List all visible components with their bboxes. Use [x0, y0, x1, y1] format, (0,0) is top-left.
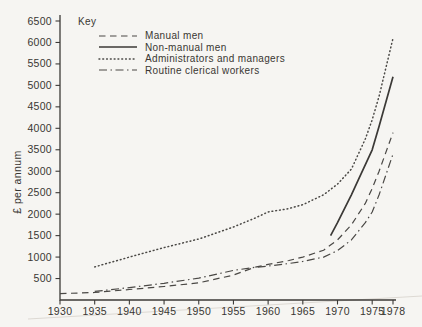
legend-swatch-dashdot [98, 67, 138, 73]
x-tick-label: 1965 [291, 305, 316, 317]
legend-item-label: Administrators and managers [145, 53, 285, 64]
x-tick-label: 1950 [186, 305, 211, 317]
scanned-book-figure: 5001000150020002500300035004000450050005… [0, 0, 422, 327]
legend-item: Manual men [98, 30, 285, 42]
legend-item: Administrators and managers [98, 53, 285, 65]
x-tick-label: 1960 [256, 305, 281, 317]
y-tick-label: 5500 [27, 57, 52, 69]
y-axis-title: £ per annum [11, 150, 23, 213]
legend-items: Manual menNon-manual menAdministrators a… [98, 30, 285, 76]
legend-item: Routine clerical workers [98, 65, 285, 77]
legend-swatch-solid [98, 44, 138, 50]
y-tick-label: 6500 [27, 15, 52, 27]
y-tick-label: 6000 [27, 36, 52, 48]
legend-swatch-dotted [98, 56, 138, 62]
y-tick-label: 4500 [27, 100, 52, 112]
legend-swatch-dashed [98, 33, 138, 39]
x-tick-label: 1955 [221, 305, 246, 317]
x-tick-label: 1945 [152, 305, 177, 317]
y-tick-label: 1000 [27, 251, 52, 263]
x-tick-label: 1940 [117, 305, 142, 317]
series-lines [60, 38, 393, 293]
legend-item: Non-manual men [98, 42, 285, 54]
legend-item-label: Manual men [145, 30, 204, 41]
y-tick-label: 1500 [27, 229, 52, 241]
y-tick-label: 3000 [27, 165, 52, 177]
series-line-solid [331, 77, 393, 236]
x-tick-label: 1978 [381, 305, 406, 317]
y-tick-label: 500 [34, 272, 52, 284]
legend-title: Key [78, 16, 285, 27]
y-tick-label: 4000 [27, 122, 52, 134]
chart-legend: Key Manual menNon-manual menAdministrato… [78, 16, 285, 76]
legend-item-label: Non-manual men [145, 42, 227, 53]
y-tick-label: 2500 [27, 186, 52, 198]
legend-item-label: Routine clerical workers [145, 65, 260, 76]
y-tick-label: 5000 [27, 79, 52, 91]
x-tick-label: 1970 [325, 305, 350, 317]
x-tick-label: 1930 [48, 305, 73, 317]
x-tick-label: 1935 [82, 305, 107, 317]
y-tick-label: 2000 [27, 208, 52, 220]
y-tick-label: 3500 [27, 143, 52, 155]
